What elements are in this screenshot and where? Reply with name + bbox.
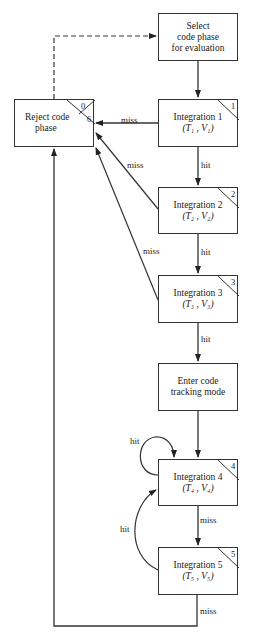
- edge-label-int5-hit: hit: [120, 524, 130, 534]
- enter-tracking-mode-node: Enter code tracking mode: [158, 363, 238, 411]
- edge-label-int4-miss: miss: [200, 515, 217, 525]
- integration-5-node: Integration 5 (T₅ , V₅) 5: [158, 547, 238, 595]
- node-text: code phase: [177, 32, 219, 43]
- node-text: tracking mode: [171, 387, 226, 398]
- integration-1-node: Integration 1 (T₁ , V₁) 1: [158, 99, 238, 147]
- corner-divider: [159, 100, 239, 148]
- edge-label-int2-hit: hit: [201, 247, 211, 257]
- corner-divider: [159, 276, 239, 324]
- select-code-phase-node: Select code phase for evaluation: [158, 13, 238, 61]
- edge-label-int3-miss: miss: [143, 246, 160, 256]
- edge-label-int3-hit: hit: [201, 334, 211, 344]
- reject-code-phase-node: Reject code phase 0 6: [14, 99, 94, 147]
- edge-label-int2-miss: miss: [127, 160, 144, 170]
- corner-divider: [159, 188, 239, 236]
- integration-4-node: Integration 4 (T₄ , V₄) 4: [158, 459, 238, 506]
- corner-number: 2: [231, 189, 235, 200]
- integration-3-node: Integration 3 (T₃ , V₃) 3: [158, 275, 238, 323]
- corner-number: 4: [231, 461, 235, 472]
- edge-label-int1-hit: hit: [201, 160, 211, 170]
- corner-number: 3: [231, 277, 235, 288]
- node-text: Select: [186, 21, 209, 32]
- corner-divider: [159, 460, 239, 508]
- node-text: Enter code: [178, 376, 219, 387]
- edge-label-int4-hit-loop: hit: [130, 436, 140, 446]
- edge-label-int5-miss: miss: [200, 606, 217, 616]
- edge-label-int1-miss: miss: [121, 115, 138, 125]
- corner-number-bottom: 6: [87, 114, 91, 125]
- corner-number: 5: [231, 549, 235, 560]
- corner-divider: [159, 548, 239, 596]
- integration-2-node: Integration 2 (T₂ , V₂) 2: [158, 187, 238, 234]
- corner-number: 1: [231, 101, 235, 112]
- corner-number-top: 0: [81, 101, 85, 112]
- node-text: for evaluation: [171, 43, 224, 54]
